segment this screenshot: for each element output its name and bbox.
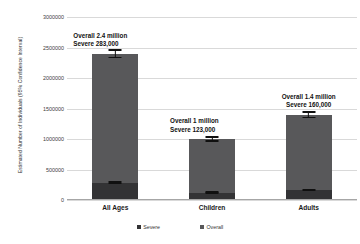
- legend-entry[interactable]: Severe: [137, 224, 160, 230]
- x-axis-tick-label: All Ages: [70, 204, 160, 211]
- error-bar-severe: [302, 189, 315, 191]
- error-bar-cap-top: [206, 136, 219, 137]
- legend-swatch-icon: [200, 225, 204, 229]
- error-bar-cap-top: [302, 111, 315, 112]
- error-bar-cap-bottom: [302, 117, 315, 118]
- error-bar-overall: [206, 136, 219, 141]
- error-bar-cap-bottom: [109, 57, 122, 58]
- y-axis-tick-label: 0: [2, 197, 64, 203]
- error-bar-cap-bottom: [109, 183, 122, 184]
- annotation-severe-line: Severe 123,000: [170, 126, 266, 135]
- legend-label: Severe: [143, 224, 160, 230]
- annotation-overall-line: Overall 2.4 million: [73, 32, 169, 41]
- x-axis-tick-label: Adults: [264, 204, 354, 211]
- y-axis-tick-label: 2500000: [2, 45, 64, 51]
- error-bar-severe: [109, 181, 122, 184]
- bar-chart: Estimated Number of Individuals (95% Con…: [0, 0, 360, 244]
- error-bar-overall: [109, 49, 122, 58]
- y-axis-tick-label: 2000000: [2, 75, 64, 81]
- bar-annotation: Overall 1.4 millionSevere 160,000: [261, 93, 357, 110]
- y-axis-tick-label: 1000000: [2, 136, 64, 142]
- legend-entry[interactable]: Overall: [200, 224, 223, 230]
- error-bar-cap-bottom: [206, 192, 219, 193]
- bar-overall: [286, 115, 332, 200]
- annotation-severe-line: Severe 283,000: [73, 40, 169, 49]
- x-axis-tick-label: Children: [167, 204, 257, 211]
- y-axis-tick-label: 1500000: [2, 106, 64, 112]
- bar-group: [189, 17, 235, 200]
- bar-overall: [92, 54, 138, 200]
- chart-legend: SevereOverall: [0, 224, 360, 230]
- error-bar-cap-bottom: [206, 140, 219, 141]
- x-axis-line: [67, 199, 357, 200]
- bar-annotation: Overall 2.4 millionSevere 283,000: [73, 32, 169, 49]
- gridline: [67, 200, 357, 201]
- error-bar-severe: [206, 191, 219, 193]
- legend-swatch-icon: [137, 225, 141, 229]
- bar-severe: [92, 183, 138, 200]
- annotation-overall-line: Overall 1 million: [170, 117, 266, 126]
- y-axis-tick-label: 500000: [2, 167, 64, 173]
- annotation-severe-line: Severe 160,000: [261, 101, 357, 110]
- bar-annotation: Overall 1 millionSevere 123,000: [170, 117, 266, 134]
- y-axis-tick-label: 3000000: [2, 14, 64, 20]
- annotation-overall-line: Overall 1.4 million: [261, 93, 357, 102]
- error-bar-overall: [302, 111, 315, 118]
- error-bar-cap-bottom: [302, 190, 315, 191]
- legend-label: Overall: [207, 224, 224, 230]
- y-axis-tick-labels: 0500000100000015000002000000250000030000…: [0, 17, 64, 200]
- error-bar-cap-top: [109, 49, 122, 50]
